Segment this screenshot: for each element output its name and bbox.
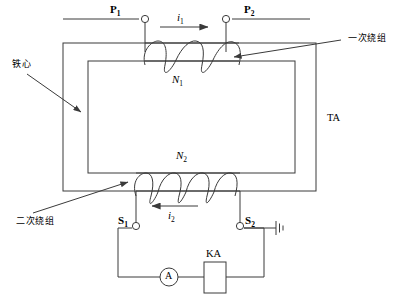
leader-secondary-winding: [33, 182, 128, 213]
terminal-p1[interactable]: [141, 15, 148, 22]
relay-ka-symbol: [204, 262, 226, 293]
secondary-circuit-wiring: [118, 228, 264, 277]
current-transformer-diagram: P1 P2 i1 N1 N2 i2 S1 S2 铁心 一次绕组 二次绕组 TA …: [0, 0, 394, 301]
label-terminal-p1: P1: [110, 4, 120, 18]
label-transformer-ta: TA: [327, 113, 340, 124]
iron-core-outer-rect: [63, 43, 316, 191]
label-terminal-p2: P2: [244, 4, 254, 18]
label-primary-turns: N1: [172, 74, 183, 88]
primary-lead-left: [63, 19, 145, 52]
terminal-p2[interactable]: [222, 15, 229, 22]
label-relay-ka: KA: [206, 249, 221, 260]
label-iron-core: 铁心: [12, 60, 31, 69]
label-secondary-turns: N2: [176, 150, 187, 164]
leader-iron-core: [27, 74, 81, 112]
label-terminal-s2: S2: [245, 215, 255, 229]
label-ammeter: A: [165, 271, 172, 281]
label-secondary-current: i2: [168, 210, 175, 224]
label-primary-winding: 一次绕组: [348, 34, 386, 43]
iron-core-inner-rect: [88, 61, 295, 173]
terminal-s1[interactable]: [132, 222, 139, 229]
label-primary-current: i1: [177, 12, 184, 26]
label-secondary-winding: 二次绕组: [16, 217, 54, 226]
secondary-winding-coil: [135, 173, 238, 204]
terminal-s2[interactable]: [236, 222, 243, 229]
diagram-canvas: [0, 0, 394, 301]
label-terminal-s1: S1: [118, 215, 128, 229]
core-bar-overlay: [136, 43, 240, 191]
